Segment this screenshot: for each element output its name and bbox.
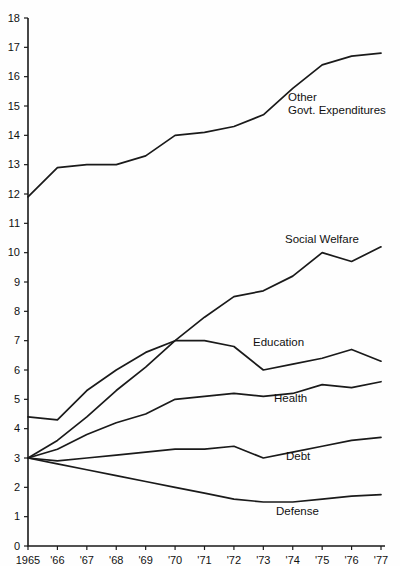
y-tick-label: 15 (0, 101, 20, 112)
y-tick-label: 17 (0, 42, 20, 53)
series-line-education (28, 341, 381, 420)
series-label-social-welfare: Social Welfare (285, 233, 359, 246)
y-tick-label: 11 (0, 218, 20, 229)
y-tick-label: 8 (0, 306, 20, 317)
y-tick-label: 9 (0, 277, 20, 288)
y-tick-label: 10 (0, 247, 20, 258)
series-label-defense: Defense (276, 505, 319, 518)
series-label-line: Govt. Expenditures (288, 104, 386, 117)
x-tick-label: '77 (361, 555, 400, 566)
series-line-defense (28, 458, 381, 502)
series-label-health: Health (274, 392, 307, 405)
series-label-education: Education (253, 336, 304, 349)
y-tick-label: 16 (0, 71, 20, 82)
y-tick-label: 18 (0, 13, 20, 24)
series-label-other-govt-expenditures: OtherGovt. Expenditures (288, 91, 386, 117)
y-tick-label: 7 (0, 335, 20, 346)
y-tick-label: 4 (0, 423, 20, 434)
series-label-line: Other (288, 91, 386, 104)
chart-series-lines (28, 53, 381, 502)
series-label-line: Social Welfare (285, 233, 359, 246)
series-label-debt: Debt (286, 450, 310, 463)
y-tick-label: 2 (0, 482, 20, 493)
series-label-line: Education (253, 336, 304, 349)
y-tick-label: 1 (0, 511, 20, 522)
y-tick-label: 14 (0, 130, 20, 141)
series-line-health (28, 382, 381, 458)
chart-plot-area (0, 0, 400, 566)
line-chart: 0123456789101112131415161718 1965'66'67'… (0, 0, 400, 566)
y-tick-label: 5 (0, 394, 20, 405)
series-label-line: Debt (286, 450, 310, 463)
y-tick-label: 13 (0, 159, 20, 170)
y-tick-label: 3 (0, 453, 20, 464)
series-line-other-govt-expenditures (28, 53, 381, 197)
series-line-debt (28, 437, 381, 460)
series-line-social-welfare (28, 247, 381, 458)
y-tick-label: 12 (0, 189, 20, 200)
y-tick-label: 0 (0, 541, 20, 552)
series-label-line: Defense (276, 505, 319, 518)
y-tick-label: 6 (0, 365, 20, 376)
series-label-line: Health (274, 392, 307, 405)
